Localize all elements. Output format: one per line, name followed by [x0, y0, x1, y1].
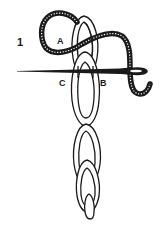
chain-tail	[85, 194, 95, 219]
needle-eye	[130, 70, 142, 73]
point-b-label: B	[100, 78, 107, 88]
step-number-label: 1	[17, 36, 23, 48]
chain-stitch-diagram: 1 A C B	[0, 0, 163, 228]
point-c-label: C	[59, 78, 66, 88]
point-a-label: A	[57, 36, 64, 46]
chain-link-2	[72, 52, 100, 126]
